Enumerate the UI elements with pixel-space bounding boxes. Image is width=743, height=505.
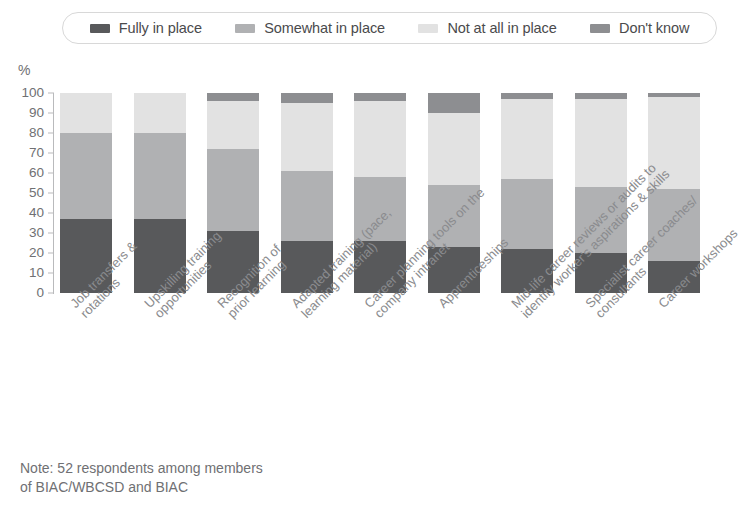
y-axis-tick-label: 70 (29, 146, 44, 160)
legend-label: Don't know (619, 20, 689, 36)
x-axis-labels: Job transfers & rotationsUpskilling trai… (0, 293, 743, 453)
y-axis-tick-label: 10 (29, 266, 44, 280)
legend-swatch-icon (235, 24, 255, 33)
y-axis-tick-label: 50 (29, 186, 44, 200)
y-axis-tick-label: 60 (29, 166, 44, 180)
legend-item-somewhat-in-place: Somewhat in place (235, 20, 385, 36)
bar-segment[interactable] (428, 113, 480, 185)
y-axis-tick-label: 40 (29, 206, 44, 220)
bar-segment[interactable] (60, 93, 112, 133)
bar-segment[interactable] (281, 171, 333, 241)
legend-label: Somewhat in place (264, 20, 385, 36)
legend-swatch-icon (90, 24, 110, 33)
bar-segment[interactable] (207, 149, 259, 231)
bar-segment[interactable] (575, 99, 627, 187)
y-axis-tick-label: 90 (29, 106, 44, 120)
bar-segment[interactable] (281, 103, 333, 171)
legend-item-not-at-all-in-place: Not at all in place (418, 20, 556, 36)
bar-segment[interactable] (134, 133, 186, 219)
bar-segment[interactable] (648, 93, 700, 97)
y-axis-tick-label: 30 (29, 226, 44, 240)
legend-swatch-icon (590, 24, 610, 33)
y-axis-unit-label: % (18, 62, 30, 78)
y-axis-tick-label: 20 (29, 246, 44, 260)
bar-segment[interactable] (501, 93, 553, 99)
bar-segment[interactable] (281, 93, 333, 103)
note-line-1: Note: 52 respondents among members (20, 459, 440, 478)
legend-swatch-icon (418, 24, 438, 33)
bar-segment[interactable] (575, 93, 627, 99)
note-line-2: of BIAC/WBCSD and BIAC (20, 478, 440, 497)
legend-label: Fully in place (119, 20, 202, 36)
bar-segment[interactable] (207, 93, 259, 101)
bar-segment[interactable] (354, 101, 406, 177)
chart-note: Note: 52 respondents among members of BI… (20, 459, 440, 497)
chart-legend: Fully in place Somewhat in place Not at … (62, 12, 717, 44)
bar-segment[interactable] (354, 93, 406, 101)
bar-segment[interactable] (428, 93, 480, 113)
bar-segment[interactable] (501, 99, 553, 179)
bar-segment[interactable] (134, 93, 186, 133)
y-axis-tick-label: 100 (21, 86, 44, 100)
y-axis-tick-label: 80 (29, 126, 44, 140)
bar-segment[interactable] (207, 101, 259, 149)
bar-segment[interactable] (501, 179, 553, 249)
y-axis: 1009080706050403020100 (0, 93, 54, 293)
legend-label: Not at all in place (447, 20, 556, 36)
legend-item-fully-in-place: Fully in place (90, 20, 202, 36)
legend-item-dont-know: Don't know (590, 20, 689, 36)
bar-segment[interactable] (60, 133, 112, 219)
